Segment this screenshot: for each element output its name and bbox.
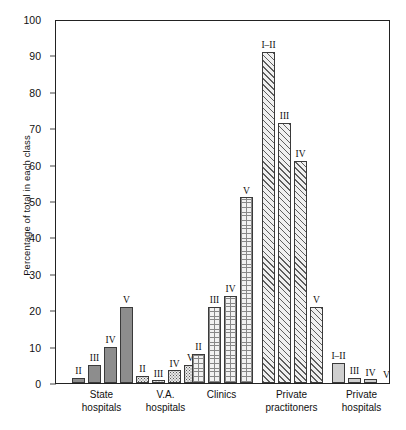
x-axis-group-label: V.A.hospitals [146, 389, 185, 414]
bar-value-label: IV [105, 335, 115, 345]
y-axis-tick-label: 0 [0, 378, 46, 390]
bar [192, 354, 205, 383]
plot-area: IIIIIIVVIIIIIIVVIIIIIIVVI–IIIIIIVVI–IIII… [55, 20, 390, 384]
bar [168, 370, 181, 383]
group-label-line2: practitoners [265, 402, 317, 415]
bar-value-label: V [383, 370, 390, 380]
x-axis-group-label: Statehospitals [82, 389, 121, 414]
group-label-line2: hospitals [82, 402, 121, 415]
bar-value-label: I–II [331, 351, 345, 361]
bar-value-label: II [75, 366, 81, 376]
bar-value-label: III [280, 111, 290, 121]
group-label-line1: V.A. [146, 389, 185, 402]
y-axis-tick-label: 10 [0, 342, 46, 354]
bar [136, 376, 149, 383]
bar [120, 307, 133, 383]
y-axis-tick-label: 100 [0, 14, 46, 26]
x-axis-group-label: Clinics [207, 389, 236, 402]
bar [224, 296, 237, 383]
bar-value-label: V [313, 295, 320, 305]
x-axis-group-label: Privatepractitoners [265, 389, 317, 414]
y-axis-tick-label: 90 [0, 50, 46, 62]
bar [348, 378, 361, 383]
bar-value-label: I–II [261, 40, 275, 50]
y-axis-tick-label: 40 [0, 232, 46, 244]
bar-value-label: III [154, 369, 164, 379]
x-axis-group-label: Privatehospitals [342, 389, 381, 414]
bar [152, 380, 165, 383]
bar-value-label: IV [169, 359, 179, 369]
y-axis-tick-label: 80 [0, 87, 46, 99]
bar [310, 307, 323, 383]
bar [278, 123, 291, 383]
bar-value-label: II [195, 342, 201, 352]
bar [294, 161, 307, 383]
group-label-line1: Private [265, 389, 317, 402]
bar-value-label: III [90, 353, 100, 363]
y-axis-tick-label: 50 [0, 196, 46, 208]
bar-value-label: IV [295, 149, 305, 159]
bar-value-label: II [139, 364, 145, 374]
bar [262, 52, 275, 383]
y-axis-tick-label: 60 [0, 160, 46, 172]
group-label-line2: hospitals [146, 402, 185, 415]
y-axis-tick-label: 30 [0, 269, 46, 281]
group-label-line2: hospitals [342, 402, 381, 415]
bars-layer: IIIIIIVVIIIIIIVVIIIIIIVVI–IIIIIIVVI–IIII… [56, 21, 389, 383]
bar [240, 197, 253, 383]
bar [88, 365, 101, 383]
bar-chart: Percentage of total in each class 010203… [0, 0, 406, 430]
bar [208, 307, 221, 383]
group-label-line1: State [82, 389, 121, 402]
bar-value-label: III [210, 295, 220, 305]
bar-value-label: III [350, 366, 360, 376]
bar-value-label: IV [225, 284, 235, 294]
bar-value-label: V [243, 186, 250, 196]
bar-value-label: V [123, 295, 130, 305]
group-label-line1: Private [342, 389, 381, 402]
bar [104, 347, 117, 383]
bar [332, 363, 345, 383]
y-axis-tick-label: 20 [0, 305, 46, 317]
y-axis-tick-label: 70 [0, 123, 46, 135]
bar-value-label: IV [365, 368, 375, 378]
group-label-line1: Clinics [207, 389, 236, 402]
bar [72, 378, 85, 383]
bar [364, 379, 377, 383]
